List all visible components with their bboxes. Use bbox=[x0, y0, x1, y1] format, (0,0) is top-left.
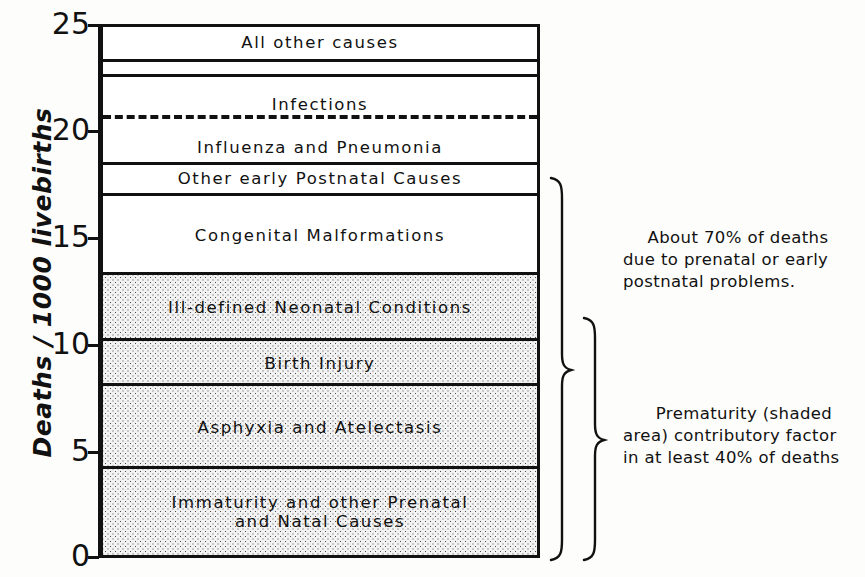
bar-segment-label: Influenza and Pneumonia bbox=[197, 138, 443, 162]
annotation-line: postnatal problems. bbox=[623, 271, 853, 293]
bar-segment-influenza-and-pneumonia[interactable]: Influenza and Pneumonia bbox=[103, 115, 537, 162]
y-tick-label-5: 5 bbox=[10, 436, 90, 466]
bar-segment-immaturity-and-other-prenatal-and-natal-causes[interactable]: Immaturity and other Prenatal and Natal … bbox=[103, 466, 537, 555]
annotation-line: About 70% of deaths bbox=[623, 227, 853, 249]
stacked-bar-chart: Deaths / 1000 livebirths 25 20 15 10 5 0… bbox=[0, 0, 865, 577]
bar-segment-birth-injury[interactable]: Birth Injury bbox=[103, 338, 537, 386]
bar-segment-label: Other early Postnatal Causes bbox=[178, 169, 462, 188]
bar-segment-ill-defined-neonatal-conditions[interactable]: Ill-defined Neonatal Conditions bbox=[103, 272, 537, 341]
y-tick-label-15: 15 bbox=[10, 222, 90, 252]
bar-segment-label: Congenital Malformations bbox=[195, 226, 445, 245]
bar-segment-infections[interactable]: Infections bbox=[103, 74, 537, 118]
brace-70-percent bbox=[549, 176, 575, 562]
bar-segment-unlabeled[interactable] bbox=[103, 59, 537, 74]
bar-segment-label: Ill-defined Neonatal Conditions bbox=[168, 298, 472, 317]
y-tick-label-10: 10 bbox=[10, 329, 90, 359]
y-tick-label-0: 0 bbox=[10, 541, 90, 571]
annotation-prematurity-contributory-factor: Prematurity (shaded area) contributory f… bbox=[623, 403, 865, 468]
bar-segment-label: All other causes bbox=[241, 33, 399, 52]
bar-segment-label: Asphyxia and Atelectasis bbox=[198, 418, 443, 437]
bar-segment-all-other-causes[interactable]: All other causes bbox=[103, 27, 537, 59]
annotation-line: area) contributory factor bbox=[623, 425, 865, 447]
bar-segment-asphyxia-and-atelectasis[interactable]: Asphyxia and Atelectasis bbox=[103, 383, 537, 469]
annotation-line: in at least 40% of deaths bbox=[623, 447, 865, 469]
stacked-bar-column: All other causes Infections Influenza an… bbox=[100, 24, 540, 558]
bar-segment-congenital-malformations[interactable]: Congenital Malformations bbox=[103, 193, 537, 275]
brace-prematurity bbox=[582, 316, 608, 562]
bar-segment-label: Immaturity and other Prenatal and Natal … bbox=[172, 493, 469, 532]
annotation-line: Prematurity (shaded bbox=[623, 403, 865, 425]
bar-segment-other-early-postnatal-causes[interactable]: Other early Postnatal Causes bbox=[103, 162, 537, 193]
annotation-line: due to prenatal or early bbox=[623, 249, 853, 271]
annotation-70-percent-of-deaths: About 70% of deaths due to prenatal or e… bbox=[623, 227, 853, 292]
y-tick-label-25: 25 bbox=[10, 9, 90, 39]
bar-segment-label: Birth Injury bbox=[265, 354, 376, 373]
y-tick-label-20: 20 bbox=[10, 115, 90, 145]
